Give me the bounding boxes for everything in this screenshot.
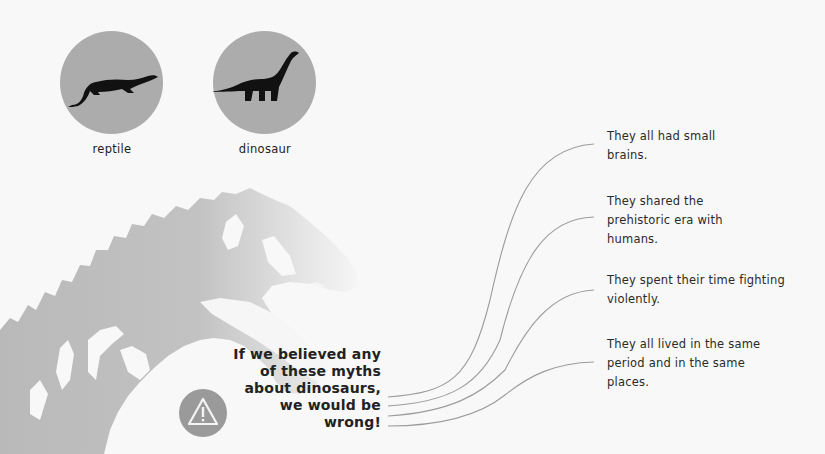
headline-line: If we believed any xyxy=(161,346,381,363)
dinosaur-label: dinosaur xyxy=(195,142,335,156)
connector-line-2 xyxy=(388,217,594,406)
myth-item-3: They spent their time fighting violently… xyxy=(607,271,797,309)
myth-text-line: places. xyxy=(607,373,797,392)
sauropod-silhouette-icon xyxy=(213,31,316,134)
warning-badge xyxy=(179,389,227,437)
connector-line-4 xyxy=(388,362,594,426)
reptile-circle xyxy=(60,31,163,134)
warning-triangle-icon xyxy=(179,389,227,437)
connector-line-3 xyxy=(388,290,594,416)
myth-item-4: They all lived in the same period and in… xyxy=(607,335,797,392)
myth-text-line: They shared the xyxy=(607,192,797,211)
myth-item-1: They all had small brains. xyxy=(607,127,797,165)
myth-text-line: humans. xyxy=(607,230,797,249)
headline-line: of these myths xyxy=(161,363,381,380)
myth-text-line: They all had small xyxy=(607,127,797,146)
connector-line-1 xyxy=(388,144,594,397)
myth-text-line: prehistoric era with xyxy=(607,211,797,230)
myth-text-line: They all lived in the same xyxy=(607,335,797,354)
myth-text-line: They spent their time fighting xyxy=(607,271,797,290)
myth-text-line: brains. xyxy=(607,146,797,165)
myth-text-line: violently. xyxy=(607,290,797,309)
crocodile-silhouette-icon xyxy=(60,31,163,134)
dinosaur-circle xyxy=(213,31,316,134)
reptile-label: reptile xyxy=(42,142,182,156)
myth-text-line: period and in the same xyxy=(607,354,797,373)
myth-item-2: They shared the prehistoric era with hum… xyxy=(607,192,797,249)
